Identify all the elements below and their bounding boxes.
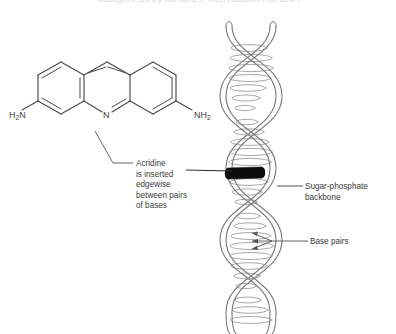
right-benzene-ring — [130, 62, 176, 114]
center-pyridine-ring — [84, 62, 130, 112]
intercalated-acridine-wedge — [225, 167, 265, 179]
helix-top-caps — [226, 22, 276, 27]
acridine-intercalation-figure: Mutagenesis by acridines: intercalation … — [0, 0, 396, 334]
acridine-molecule — [22, 62, 192, 114]
annotation-acridine: Acridine is inserted edgewise between pa… — [136, 159, 187, 212]
annotation-sugar-phosphate-line-2: backbone — [305, 193, 368, 204]
acridine-pointer-line — [186, 170, 232, 171]
bond-right-amine — [176, 101, 192, 110]
annotation-base-pairs-line-1: Base pairs — [310, 237, 349, 248]
ring-nitrogen-label: N — [103, 110, 110, 120]
molecule-atom-labels: H2N NH2 N — [9, 110, 211, 121]
base-pairs-leader-lines — [252, 232, 308, 251]
diagram-canvas: H2N NH2 N — [0, 0, 396, 334]
amine-left-label: H2N — [9, 110, 26, 121]
annotation-acridine-line-2: is inserted — [136, 170, 187, 181]
bond-left-amine — [22, 101, 38, 110]
annotation-acridine-line-3: edgewise — [136, 180, 187, 191]
annotation-acridine-line-5: of bases — [136, 201, 187, 212]
annotation-sugar-phosphate-line-1: Sugar-phosphate — [305, 182, 368, 193]
annotation-acridine-line-1: Acridine — [136, 159, 187, 170]
annotation-base-pairs: Base pairs — [310, 237, 349, 248]
amine-right-label: NH2 — [194, 110, 211, 121]
acridine-leader-line — [95, 131, 133, 163]
annotation-acridine-line-4: between pairs — [136, 191, 187, 202]
left-benzene-ring — [38, 62, 84, 114]
annotation-sugar-phosphate-backbone: Sugar-phosphate backbone — [305, 182, 368, 203]
